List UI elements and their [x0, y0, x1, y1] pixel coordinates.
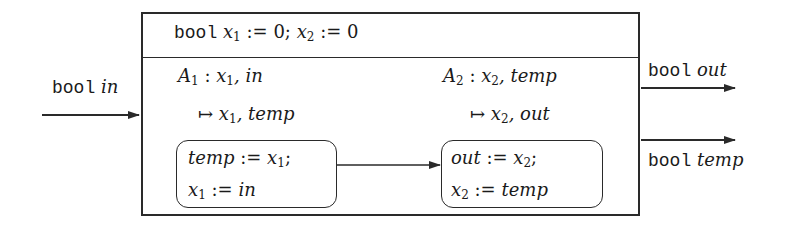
- var-x2: x2: [297, 21, 315, 42]
- task-a2-writes: ↦ x2, out: [470, 104, 550, 129]
- output-port-temp-label: bool temp: [648, 150, 743, 171]
- task-a2-stmt-2: x2 := temp: [451, 180, 548, 205]
- output-port-out-label: bool out: [648, 60, 727, 81]
- task-a1-stmt-2: x1 := in: [188, 180, 256, 205]
- task-a2-signature: A2 : x2, temp: [443, 66, 557, 91]
- input-port-label: bool in: [52, 77, 118, 98]
- task-a1-signature: A1 : x1, in: [178, 66, 263, 91]
- declaration-type: bool: [174, 23, 217, 43]
- declaration-divider: [141, 57, 640, 58]
- var-x1: x1: [223, 21, 241, 42]
- declaration: bool x1 := 0; x2 := 0: [174, 22, 359, 47]
- task-a1-stmt-1: temp := x1;: [188, 148, 291, 173]
- task-a2-stmt-1: out := x2;: [451, 148, 537, 173]
- task-a1-writes: ↦ x1, temp: [198, 104, 295, 129]
